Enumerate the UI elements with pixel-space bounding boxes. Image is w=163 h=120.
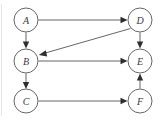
node-c-label: C <box>23 96 30 107</box>
diagram-canvas: A B C D E F <box>0 0 163 120</box>
edge-a-to-b <box>23 33 29 49</box>
node-d-label: D <box>135 15 144 26</box>
edge-f-to-e <box>137 74 143 89</box>
node-a-label: A <box>22 15 30 26</box>
node-d[interactable]: D <box>128 8 152 32</box>
node-b[interactable]: B <box>14 49 38 73</box>
edge-b-to-c <box>23 74 29 90</box>
edge-d-to-e <box>137 33 143 49</box>
edge-c-to-f <box>39 98 128 104</box>
node-a[interactable]: A <box>14 8 38 32</box>
edge-b-to-e <box>39 58 128 64</box>
node-e[interactable]: E <box>128 49 152 73</box>
node-b-label: B <box>23 56 29 67</box>
node-f-label: F <box>136 96 144 107</box>
node-f[interactable]: F <box>128 89 152 113</box>
node-e-label: E <box>136 56 143 67</box>
edge-d-to-b <box>39 29 131 57</box>
directed-graph: A B C D E F <box>0 0 163 120</box>
node-c[interactable]: C <box>14 89 38 113</box>
edge-a-to-d <box>39 17 128 23</box>
